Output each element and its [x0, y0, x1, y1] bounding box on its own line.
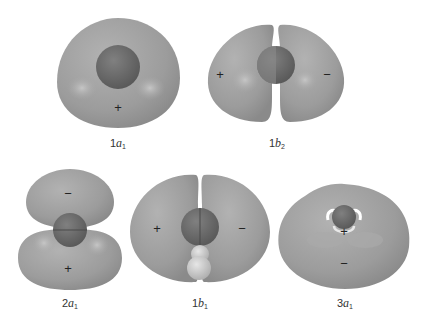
orbital-label-1b2: 1b2 [269, 136, 285, 151]
orbital-label-3a1: 3a1 [337, 296, 353, 311]
orbital-label-2a1: 2a1 [62, 296, 78, 311]
phase-sign-positive: + [340, 225, 348, 238]
molecular-orbital-figure: + + − − + + − + − 1a1 1b2 2a1 1b1 3a1 [0, 0, 434, 317]
phase-sign-positive: + [114, 101, 122, 114]
orbital-label-1a1: 1a1 [110, 136, 126, 151]
orbital-1b1 [130, 175, 270, 282]
phase-sign-negative: − [238, 222, 246, 235]
phase-sign-positive: + [153, 222, 161, 235]
oxygen-atom [96, 45, 140, 89]
orbital-label-1b1: 1b1 [192, 296, 208, 311]
phase-sign-positive: + [216, 68, 224, 81]
phase-sign-negative: − [340, 257, 348, 270]
phase-sign-negative: − [64, 187, 72, 200]
phase-sign-negative: − [323, 68, 331, 81]
phase-sign-positive: + [64, 262, 72, 275]
